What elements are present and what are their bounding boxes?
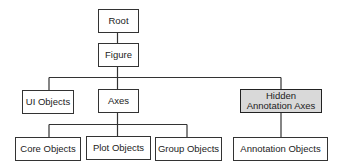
- node-core-objects: Core Objects: [15, 137, 81, 161]
- node-axes: Axes: [98, 89, 139, 113]
- hidden-annotation-axes-line2: Annotation Axes: [247, 101, 316, 111]
- node-root: Root: [98, 9, 139, 33]
- node-ui-objects: UI Objects: [22, 90, 74, 114]
- node-hidden-annotation-axes: Hidden Annotation Axes: [240, 89, 322, 113]
- node-annotation-objects: Annotation Objects: [233, 137, 328, 161]
- node-group-objects: Group Objects: [155, 137, 222, 161]
- hierarchy-diagram: Root Figure UI Objects Axes Hidden Annot…: [0, 0, 342, 167]
- node-plot-objects: Plot Objects: [86, 136, 151, 160]
- node-figure: Figure: [98, 43, 139, 67]
